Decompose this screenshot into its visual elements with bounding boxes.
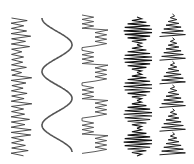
stepped-zigzag-pattern bbox=[82, 15, 108, 153]
jagged-zigzag-pattern bbox=[11, 18, 32, 156]
illustration-canvas bbox=[0, 0, 194, 164]
beaded-coils-pattern bbox=[124, 17, 152, 156]
sine-wave-pattern bbox=[42, 18, 72, 152]
zigzag-patterns-illustration bbox=[0, 0, 194, 164]
triangle-coils-pattern bbox=[160, 14, 186, 155]
